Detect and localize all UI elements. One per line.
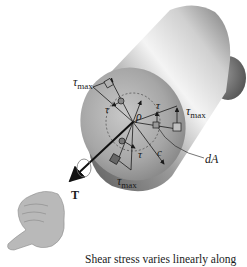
tau-label-left: τ — [105, 104, 109, 115]
tau-max-label-right: τmax — [186, 105, 206, 120]
tau-max-label-top: τmax — [73, 76, 93, 91]
da-label: dA — [205, 153, 218, 165]
figure-caption: Shear stress varies linearly along — [85, 253, 236, 265]
c-label: c — [157, 147, 162, 158]
right-hand-icon — [8, 191, 65, 250]
tau-label-right: τ — [156, 100, 160, 111]
tau-max-label-bottom: τmax — [117, 175, 137, 190]
torque-label: T — [71, 189, 79, 201]
shaft-torsion-diagram — [0, 0, 247, 267]
tau-label-bottom: τ — [138, 149, 142, 160]
rho-label: ρ — [136, 110, 142, 122]
